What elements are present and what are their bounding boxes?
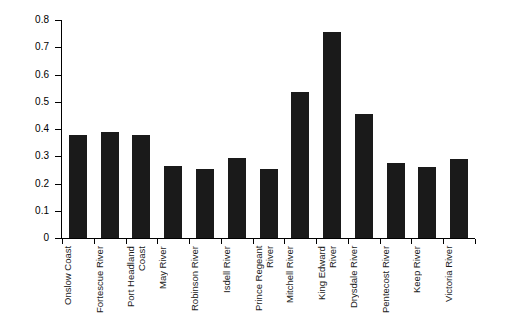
- x-axis-label: Victoria River: [444, 246, 474, 324]
- x-axis-label: Isdell River: [222, 246, 252, 324]
- x-axis-label: Keep River: [412, 246, 442, 324]
- x-axis-tick: [443, 239, 444, 244]
- x-axis-label: Prince Regeant River: [254, 246, 284, 324]
- x-axis-label: Onslow Coast: [63, 246, 93, 324]
- x-axis-label: Mitchell River: [285, 246, 315, 324]
- x-axis-tick: [380, 239, 381, 244]
- x-axis-tick: [475, 239, 476, 244]
- x-axis-tick: [253, 239, 254, 244]
- x-axis-label: Drysdale River: [349, 246, 379, 324]
- x-axis-tick: [284, 239, 285, 244]
- x-axis-tick: [62, 239, 63, 244]
- x-axis-label: Port Headland Coast: [126, 246, 156, 324]
- x-axis-tick: [189, 239, 190, 244]
- x-axis-labels: Onslow CoastFortescue RiverPort Headland…: [0, 0, 511, 328]
- x-axis-tick: [157, 239, 158, 244]
- x-axis-tick: [94, 239, 95, 244]
- bar-chart: 0.80.70.60.50.40.30.20.10 Onslow CoastFo…: [0, 0, 511, 328]
- x-axis-tick: [411, 239, 412, 244]
- x-axis-label: May River: [158, 246, 188, 324]
- x-axis-tick: [316, 239, 317, 244]
- x-axis-tick: [348, 239, 349, 244]
- x-axis-label: Pentecost River: [381, 246, 411, 324]
- x-axis-tick: [221, 239, 222, 244]
- x-axis-tick: [126, 239, 127, 244]
- x-axis-label: Robinson River: [190, 246, 220, 324]
- x-axis-label: Fortescue River: [95, 246, 125, 324]
- x-axis-label: King Edward River: [317, 246, 347, 324]
